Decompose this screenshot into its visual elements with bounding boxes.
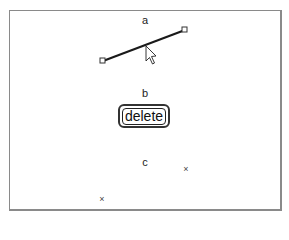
selected-line[interactable]: [103, 30, 185, 61]
cross-marker: ×: [183, 165, 188, 174]
label-c: c: [142, 157, 148, 168]
delete-button-label: delete: [122, 108, 166, 125]
delete-button[interactable]: delete: [118, 104, 170, 128]
mouse-pointer-icon: [146, 46, 156, 64]
cross-marker: ×: [99, 195, 104, 204]
line-end-handle[interactable]: [182, 27, 187, 32]
line-start-handle[interactable]: [100, 58, 105, 63]
label-b: b: [142, 88, 148, 99]
